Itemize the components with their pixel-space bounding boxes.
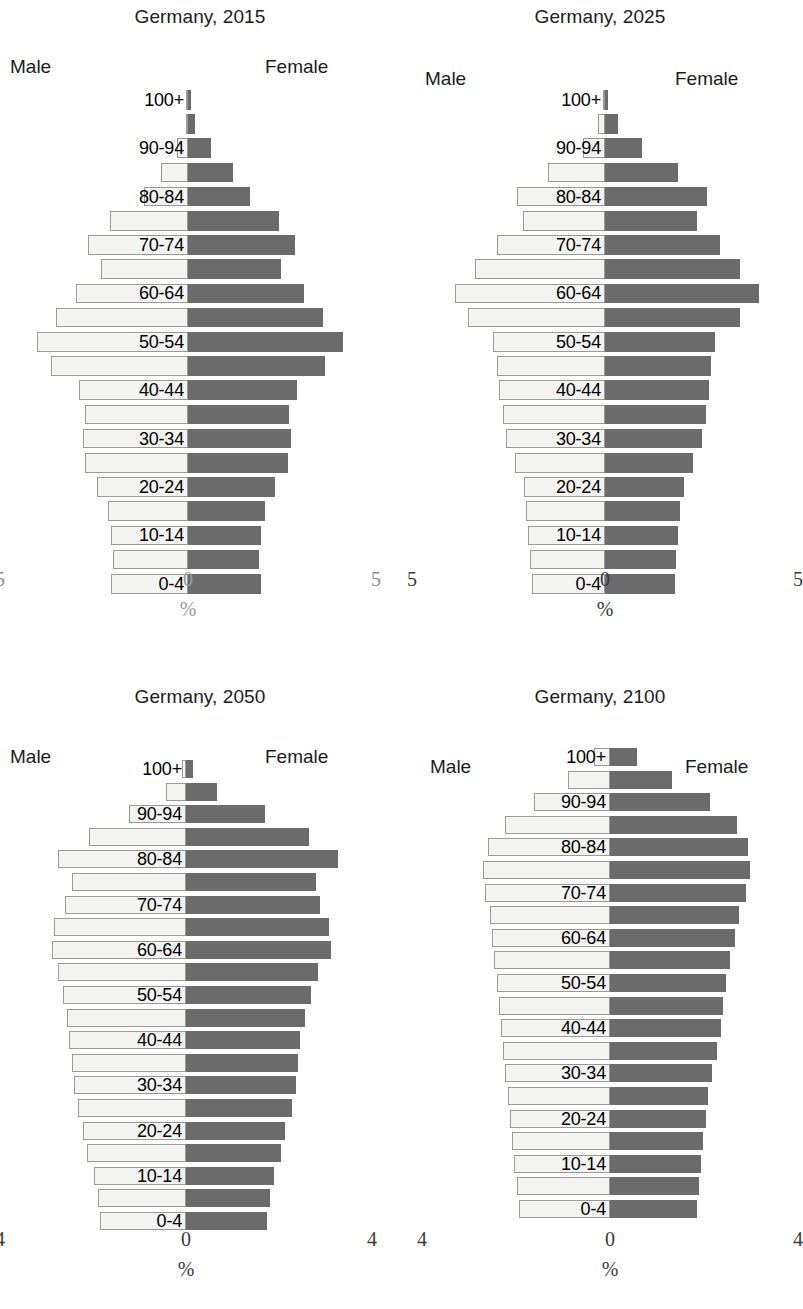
age-group-label: 60-64 xyxy=(505,283,601,304)
age-group-label: 90-94 xyxy=(86,804,182,825)
pyramid-row xyxy=(0,429,400,449)
pyramid-plot: MaleFemale0-410-1420-2430-3440-4450-5460… xyxy=(400,708,800,1248)
female-bar xyxy=(605,284,759,304)
female-bar xyxy=(605,163,678,183)
female-bar xyxy=(186,1212,267,1230)
age-group-label: 60-64 xyxy=(510,927,606,948)
pyramid-row xyxy=(0,308,400,328)
age-group-label: 10-14 xyxy=(510,1153,606,1174)
pyramid-plot: MaleFemale0-410-1420-2430-3440-4450-5460… xyxy=(0,28,400,588)
age-group-label: 90-94 xyxy=(510,792,606,813)
pyramid-row xyxy=(400,259,800,279)
age-group-label: 30-34 xyxy=(88,428,184,449)
female-bar xyxy=(186,1122,285,1140)
male-bar xyxy=(161,163,188,183)
age-group-label: 40-44 xyxy=(86,1030,182,1051)
pyramid-row xyxy=(0,918,400,936)
pyramid-row xyxy=(400,1042,800,1060)
male-bar xyxy=(515,453,605,473)
pyramid-row xyxy=(0,501,400,521)
female-bar xyxy=(610,1177,699,1195)
pyramid-row xyxy=(400,1132,800,1150)
x-tick-left: 5 xyxy=(407,568,417,591)
age-group-label: 0-4 xyxy=(88,573,184,594)
pyramid-row xyxy=(0,850,400,868)
pyramid-row xyxy=(0,356,400,376)
female-bar xyxy=(610,1155,701,1173)
pyramid-row xyxy=(0,163,400,183)
male-bar xyxy=(108,501,188,521)
pyramid-row xyxy=(400,771,800,789)
male-bar xyxy=(568,771,610,789)
age-group-label: 10-14 xyxy=(88,525,184,546)
pyramid-row xyxy=(400,501,800,521)
x-tick-left: 4 xyxy=(417,1228,427,1251)
female-bar xyxy=(186,805,265,823)
age-group-label: 70-74 xyxy=(88,235,184,256)
age-group-label: 70-74 xyxy=(510,882,606,903)
male-bar xyxy=(503,405,605,425)
female-bar xyxy=(188,332,343,352)
female-bar xyxy=(610,997,723,1015)
x-tick-center: 0 xyxy=(605,1228,615,1251)
male-bar xyxy=(85,453,188,473)
pyramid-plot: MaleFemale0-410-1420-2430-3440-4450-5460… xyxy=(0,708,400,1248)
pyramid-row xyxy=(0,963,400,981)
panel-germany-2015: Germany, 2015 MaleFemale0-410-1420-2430-… xyxy=(0,0,400,670)
female-bar xyxy=(610,816,737,834)
age-group-label: 90-94 xyxy=(505,138,601,159)
female-bar xyxy=(188,477,275,497)
male-bar xyxy=(113,550,188,570)
pyramid-row xyxy=(400,816,800,834)
female-bar xyxy=(188,356,325,376)
male-bar xyxy=(490,906,610,924)
pyramid-row xyxy=(0,1031,400,1049)
age-group-label: 20-24 xyxy=(505,477,601,498)
female-bar xyxy=(610,861,750,879)
female-bar xyxy=(188,138,211,158)
pyramid-row xyxy=(0,235,400,255)
male-bar xyxy=(508,1087,610,1105)
pyramid-row xyxy=(400,1177,800,1195)
female-bar xyxy=(186,783,217,801)
male-bar xyxy=(166,783,186,801)
female-bar xyxy=(610,1087,708,1105)
pyramid-row xyxy=(0,1009,400,1027)
female-bar xyxy=(610,951,730,969)
male-bar xyxy=(475,259,605,279)
female-bar xyxy=(186,986,311,1004)
male-bar xyxy=(67,1009,186,1027)
female-bar xyxy=(605,308,740,328)
pyramid-row xyxy=(0,90,400,110)
female-bar xyxy=(186,963,318,981)
panel-title: Germany, 2015 xyxy=(0,0,400,28)
pyramid-row xyxy=(0,873,400,891)
age-group-label: 70-74 xyxy=(505,235,601,256)
female-bar xyxy=(605,235,720,255)
age-group-label: 30-34 xyxy=(86,1075,182,1096)
panel-title: Germany, 2025 xyxy=(400,0,800,28)
male-bar xyxy=(87,1144,186,1162)
pyramid-row xyxy=(0,1076,400,1094)
male-bar xyxy=(517,1177,610,1195)
pyramid-row xyxy=(0,138,400,158)
pyramid-row xyxy=(0,1099,400,1117)
female-bar xyxy=(610,974,726,992)
male-bar xyxy=(98,1189,186,1207)
male-bar xyxy=(523,211,605,231)
female-bar xyxy=(186,1189,270,1207)
pyramid-row xyxy=(400,951,800,969)
pyramid-row xyxy=(0,526,400,546)
male-bar xyxy=(548,163,605,183)
age-group-label: 100+ xyxy=(86,759,182,780)
female-bar xyxy=(605,211,697,231)
panel-germany-2100: Germany, 2100 MaleFemale0-410-1420-2430-… xyxy=(400,670,800,1309)
age-group-label: 60-64 xyxy=(88,283,184,304)
age-group-label: 40-44 xyxy=(88,380,184,401)
female-bar xyxy=(605,574,675,594)
female-bar xyxy=(188,453,288,473)
female-bar xyxy=(605,405,706,425)
pyramid-row xyxy=(0,477,400,497)
female-bar xyxy=(188,405,289,425)
male-bar xyxy=(526,501,605,521)
